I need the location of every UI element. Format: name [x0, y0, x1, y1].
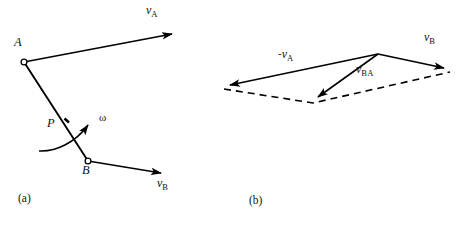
- caption-panel-b: (b): [249, 195, 262, 207]
- velocity-vector-b-arrow: [88, 161, 161, 173]
- pin-joint-a: [21, 59, 27, 65]
- label-minus-velocity-a: -vA: [278, 48, 293, 62]
- point-p-tick-mark: [65, 119, 70, 123]
- figure-container: A B P vA vB ω (a) -vA vBA vB (b): [0, 0, 471, 225]
- vector-vb-arrow: [378, 54, 444, 68]
- label-point-b: B: [82, 164, 90, 177]
- label-velocity-b-subscript: B: [162, 182, 168, 192]
- label-velocity-a: vA: [146, 4, 158, 18]
- label-point-p: P: [47, 117, 55, 130]
- label-velocity-b-panel-b-subscript: B: [429, 36, 435, 46]
- label-angular-velocity-omega: ω: [99, 112, 106, 123]
- label-relative-velocity-ba-subscript: BA: [361, 68, 373, 78]
- dashed-construction-path: [224, 72, 450, 103]
- label-velocity-b-panel-b: vB: [424, 31, 435, 45]
- label-minus-velocity-a-subscript: A: [287, 53, 293, 63]
- velocity-vector-a-arrow: [24, 34, 172, 62]
- panel-b-graphics: [224, 54, 450, 103]
- panel-a-graphics: [21, 34, 172, 173]
- kinematics-diagram-svg: [0, 0, 471, 225]
- label-point-a: A: [14, 36, 22, 49]
- rigid-bar-ab: [24, 62, 88, 161]
- caption-panel-a: (a): [18, 193, 31, 205]
- label-velocity-b: vB: [157, 177, 168, 191]
- label-relative-velocity-ba: vBA: [356, 63, 374, 77]
- label-velocity-a-subscript: A: [151, 9, 157, 19]
